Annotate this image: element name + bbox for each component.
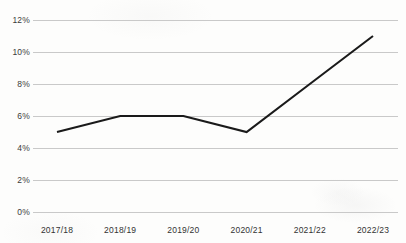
x-axis-tick-label: 2018/19	[104, 225, 136, 235]
x-axis-tick-label: 2017/18	[41, 225, 73, 235]
x-axis-tick-label: 2021/22	[294, 225, 326, 235]
x-axis-tick-label: 2019/20	[167, 225, 199, 235]
x-axis: 2017/182018/192019/202020/212021/222022/…	[0, 0, 406, 243]
x-axis-tick-label: 2020/21	[231, 225, 263, 235]
line-chart: 0%2%4%6%8%10%12% 2017/182018/192019/2020…	[0, 0, 406, 243]
x-axis-tick-label: 2022/23	[357, 225, 389, 235]
